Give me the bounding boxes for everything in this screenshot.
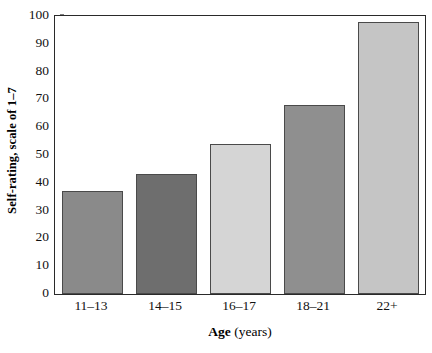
bar-chart-figure: Self-rating, scale of 1–7 01020304050607… [0,0,432,353]
bar [136,174,197,294]
x-axis-title-units: (years) [234,324,271,339]
y-axis-tick-labels: 0102030405060708090100 [10,0,54,353]
x-axis-tick-label: 18–21 [296,298,330,314]
y-axis-tick-label: 80 [10,63,54,79]
bar [284,105,345,294]
x-axis-tick-label: 14–15 [148,298,182,314]
x-axis-title-bold: Age [208,324,231,339]
x-axis-title: Age (years) [54,324,426,340]
y-axis-tick-label: 100 [10,7,54,23]
x-axis-tick-labels: 11–1314–1516–1718–2122+ [54,296,426,320]
y-axis-tick-label: 90 [10,35,54,51]
plot-area [54,15,426,295]
y-axis-tick-label: 50 [10,146,54,162]
bar [358,22,419,294]
y-axis-tick-label: 60 [10,118,54,134]
y-axis-tick-label: 0 [10,285,54,301]
y-axis-tick-label: 70 [10,90,54,106]
x-axis-tick-label: 22+ [376,298,397,314]
y-axis-tick-label: 10 [10,257,54,273]
y-axis-tick-label: 20 [10,229,54,245]
x-axis-tick-label: 16–17 [222,298,256,314]
y-axis-tick-label: 40 [10,174,54,190]
x-axis-tick-label: 11–13 [74,298,107,314]
bar [62,191,123,294]
bar [210,144,271,294]
y-axis-tick-label: 30 [10,202,54,218]
